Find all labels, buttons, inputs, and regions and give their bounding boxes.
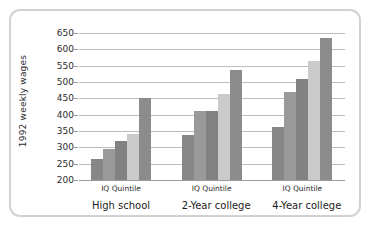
group-axis-label-2: IQ Quintile <box>182 184 242 193</box>
y-tick-label-300: 300 <box>57 143 74 152</box>
category-label-2: 2-Year college <box>182 200 242 211</box>
y-tick-label-550: 550 <box>57 61 74 70</box>
plot-area: 200250300350400450500550600650 IQ Quinti… <box>79 33 345 180</box>
y-tick-mark-550 <box>74 66 78 67</box>
bar-2-5 <box>230 70 242 180</box>
bar-2-4 <box>218 94 230 180</box>
gridline-200 <box>79 180 345 181</box>
bar-3-3 <box>296 79 308 180</box>
y-tick-mark-500 <box>74 82 78 83</box>
y-tick-mark-350 <box>74 131 78 132</box>
bar-group-1: IQ QuintileHigh school <box>91 33 151 180</box>
group-axis-label-1: IQ Quintile <box>91 184 151 193</box>
group-axis-label-3: IQ Quintile <box>272 184 332 193</box>
bar-3-2 <box>284 92 296 180</box>
bar-1-2 <box>103 149 115 180</box>
y-tick-mark-250 <box>74 164 78 165</box>
y-axis-title: 1992 weekly wages <box>18 41 28 161</box>
y-tick-mark-450 <box>74 98 78 99</box>
category-label-1: High school <box>91 200 151 211</box>
y-tick-mark-400 <box>74 115 78 116</box>
y-tick-mark-600 <box>74 49 78 50</box>
y-tick-label-350: 350 <box>57 127 74 136</box>
bar-1-3 <box>115 141 127 180</box>
y-tick-label-650: 650 <box>57 29 74 38</box>
bar-3-1 <box>272 127 284 180</box>
bar-1-4 <box>127 134 139 180</box>
bar-1-5 <box>139 98 151 180</box>
y-tick-label-500: 500 <box>57 78 74 87</box>
y-tick-mark-650 <box>74 33 78 34</box>
bar-group-3: IQ Quintile4-Year college <box>272 33 332 180</box>
bar-2-1 <box>182 135 194 180</box>
y-tick-mark-200 <box>74 180 78 181</box>
bar-chart-figure: 1992 weekly wages 2002503003504004505005… <box>0 0 378 234</box>
y-tick-mark-300 <box>74 147 78 148</box>
y-tick-label-600: 600 <box>57 45 74 54</box>
bar-group-2: IQ Quintile2-Year college <box>182 33 242 180</box>
bar-3-5 <box>320 38 332 180</box>
y-tick-label-450: 450 <box>57 94 74 103</box>
y-tick-label-400: 400 <box>57 110 74 119</box>
category-label-3: 4-Year college <box>272 200 332 211</box>
bar-2-3 <box>206 111 218 180</box>
bar-1-1 <box>91 159 103 180</box>
y-tick-label-250: 250 <box>57 159 74 168</box>
y-tick-label-200: 200 <box>57 176 74 185</box>
bar-3-4 <box>308 61 320 180</box>
bar-2-2 <box>194 111 206 180</box>
